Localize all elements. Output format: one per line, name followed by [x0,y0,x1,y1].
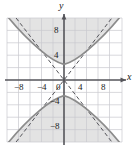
y-tick-label-neg4: −4 [50,97,60,106]
coordinate-plane-svg [0,0,137,147]
x-axis-label: x [127,72,131,82]
origin-label: 0 [56,83,61,92]
x-tick-label-neg8: −8 [14,83,24,92]
y-axis-arrow [62,14,67,20]
x-axis-arrow [121,78,127,83]
x-tick-label-neg4: −4 [37,83,47,92]
x-tick-label-pos8: 8 [101,83,106,92]
y-tick-label-pos8: 8 [54,26,59,35]
y-tick-label-pos4: 4 [54,51,59,60]
x-tick-label-pos4: 4 [78,83,83,92]
y-axis-label: y [59,1,63,11]
hyperbola-graph-figure: −8 −4 0 4 8 8 4 −4 −8 x y [0,0,137,147]
y-tick-label-neg8: −8 [50,122,60,131]
